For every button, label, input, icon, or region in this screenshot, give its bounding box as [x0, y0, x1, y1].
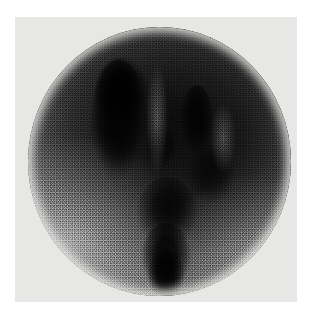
scintigraphy-field-of-view [28, 27, 291, 296]
film-plate [15, 17, 297, 302]
field-edge-feather [28, 27, 291, 296]
scan-page [0, 0, 313, 317]
